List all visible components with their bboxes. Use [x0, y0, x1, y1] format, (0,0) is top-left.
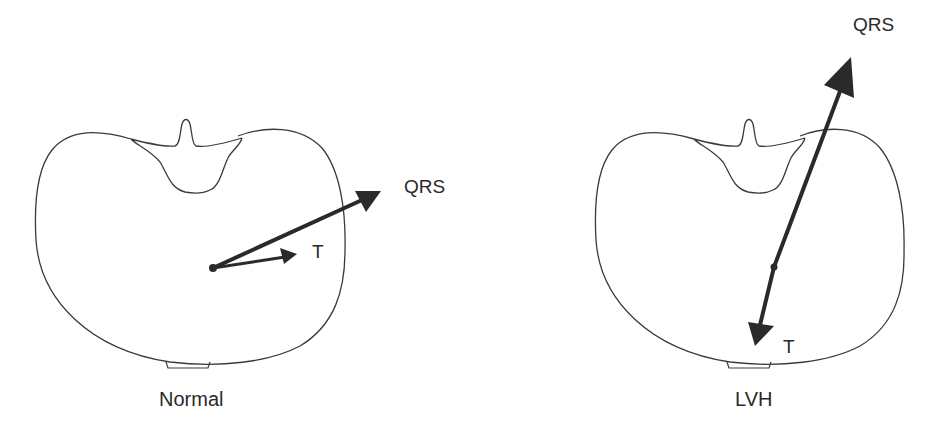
qrs-arrow-lvh — [774, 57, 854, 267]
caption-lvh: LVH — [735, 388, 772, 411]
spine-normal — [131, 120, 242, 194]
qrs-label-normal: QRS — [404, 176, 445, 198]
spine-lvh — [694, 120, 805, 194]
chest-outline-normal — [35, 129, 345, 364]
normal-panel — [35, 120, 381, 369]
chest-outline-lvh — [595, 129, 904, 364]
caption-normal: Normal — [159, 388, 223, 411]
qrs-label-lvh: QRS — [853, 14, 894, 36]
t-arrow-lvh — [748, 267, 774, 346]
lvh-panel — [595, 57, 904, 368]
t-label-lvh: T — [783, 336, 795, 358]
qrs-arrow-normal — [213, 191, 381, 268]
diagram-canvas — [0, 0, 949, 440]
t-label-normal: T — [312, 241, 324, 263]
